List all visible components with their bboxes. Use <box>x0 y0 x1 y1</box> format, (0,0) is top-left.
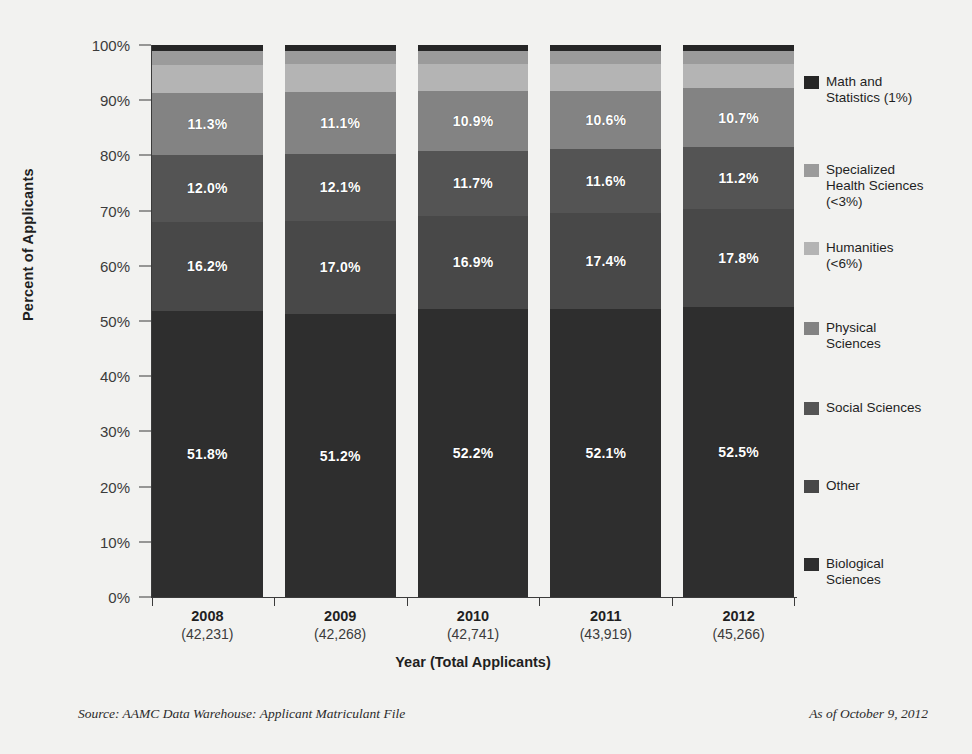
bar-segment[interactable] <box>152 51 263 66</box>
legend-swatch-icon <box>804 76 819 89</box>
legend-swatch-icon <box>804 558 819 571</box>
bar-segment-label: 17.4% <box>585 253 626 269</box>
bar-segment[interactable] <box>152 65 263 93</box>
chart-page: Percent of Applicants 100%90%80%70%60%50… <box>0 0 972 754</box>
bar-column[interactable]: 10.9%11.7%16.9%52.2% <box>418 45 529 597</box>
bar-segment[interactable]: 11.7% <box>418 151 529 216</box>
bar-segment[interactable] <box>683 51 794 64</box>
bar-segment-label: 12.1% <box>320 179 361 195</box>
bar-column[interactable]: 11.3%12.0%16.2%51.8% <box>152 45 263 597</box>
bar-segment[interactable] <box>418 51 529 64</box>
bar-segment[interactable]: 51.8% <box>152 311 263 597</box>
x-tick-total-applicants: (42,268) <box>285 626 396 642</box>
y-tick-mark <box>139 155 151 156</box>
bars-container: 11.3%12.0%16.2%51.8%11.1%12.1%17.0%51.2%… <box>152 45 794 597</box>
bar-segment[interactable]: 52.1% <box>550 309 661 597</box>
legend-item[interactable]: Social Sciences <box>804 400 954 416</box>
legend-label: Other <box>826 478 860 494</box>
bar-segment[interactable]: 12.1% <box>285 154 396 221</box>
x-tick-year: 2009 <box>285 608 396 624</box>
bar-segment[interactable]: 17.4% <box>550 213 661 309</box>
x-tick-year: 2008 <box>152 608 263 624</box>
bar-segment[interactable] <box>550 64 661 90</box>
legend-item[interactable]: Other <box>804 478 954 494</box>
x-tick-total-applicants: (42,741) <box>418 626 529 642</box>
legend-swatch-icon <box>804 242 819 255</box>
bar-segment[interactable]: 11.1% <box>285 92 396 153</box>
x-axis-label-group: 2012(45,266) <box>683 602 794 642</box>
bar-segment[interactable]: 11.2% <box>683 147 794 209</box>
y-tick-mark <box>139 486 151 487</box>
y-tick-label: 40% <box>100 368 130 385</box>
legend-label: Social Sciences <box>826 400 921 416</box>
y-tick-label: 70% <box>100 202 130 219</box>
legend-item[interactable]: Humanities (<6%) <box>804 240 954 272</box>
legend-label: Humanities (<6%) <box>826 240 894 272</box>
x-tick-year: 2012 <box>683 608 794 624</box>
bar-segment-label: 52.1% <box>585 445 626 461</box>
legend-swatch-icon <box>804 164 819 177</box>
bar-segment[interactable] <box>285 51 396 65</box>
bar-segment-label: 16.9% <box>453 254 494 270</box>
bar-segment-label: 11.7% <box>453 175 493 191</box>
bar-segment-label: 52.5% <box>718 444 759 460</box>
bar-segment-label: 11.1% <box>320 115 360 131</box>
bar-segment-label: 16.2% <box>187 258 228 274</box>
bar-segment[interactable]: 10.7% <box>683 88 794 147</box>
legend-item[interactable]: Math and Statistics (1%) <box>804 74 954 106</box>
legend-swatch-icon <box>804 402 819 415</box>
bar-column[interactable]: 10.7%11.2%17.8%52.5% <box>683 45 794 597</box>
x-axis-title: Year (Total Applicants) <box>152 654 794 670</box>
y-tick-mark <box>139 265 151 266</box>
bar-segment[interactable]: 10.9% <box>418 91 529 151</box>
y-tick-label: 90% <box>100 92 130 109</box>
x-axis-label-group: 2010(42,741) <box>418 602 529 642</box>
y-tick-label: 0% <box>108 589 130 606</box>
legend-label: Biological Sciences <box>826 556 884 588</box>
bar-segment[interactable]: 12.0% <box>152 155 263 221</box>
bar-segment[interactable] <box>550 51 661 65</box>
bar-gap <box>661 45 683 597</box>
bar-gap <box>528 45 550 597</box>
bar-segment[interactable]: 16.9% <box>418 216 529 309</box>
legend-item[interactable]: Biological Sciences <box>804 556 954 588</box>
bar-segment[interactable]: 17.0% <box>285 221 396 315</box>
x-axis-line <box>151 597 797 598</box>
bar-column[interactable]: 11.1%12.1%17.0%51.2% <box>285 45 396 597</box>
bar-segment[interactable]: 10.6% <box>550 91 661 150</box>
x-tick-total-applicants: (42,231) <box>152 626 263 642</box>
x-tick-total-applicants: (45,266) <box>683 626 794 642</box>
figure-canvas: Percent of Applicants 100%90%80%70%60%50… <box>26 10 946 736</box>
bar-segment[interactable]: 16.2% <box>152 222 263 311</box>
x-tick-year: 2011 <box>550 608 661 624</box>
bar-segment[interactable] <box>418 64 529 91</box>
y-tick-label: 20% <box>100 478 130 495</box>
bar-gap <box>263 45 285 597</box>
bar-segment[interactable]: 52.5% <box>683 307 794 597</box>
legend-label: Specialized Health Sciences (<3%) <box>826 162 924 210</box>
bar-segment-label: 17.8% <box>718 250 759 266</box>
bar-segment[interactable]: 52.2% <box>418 309 529 597</box>
legend-swatch-icon <box>804 480 819 493</box>
bar-column[interactable]: 10.6%11.6%17.4%52.1% <box>550 45 661 597</box>
bar-segment-label: 10.6% <box>585 112 626 128</box>
legend-item[interactable]: Physical Sciences <box>804 320 954 352</box>
x-axis-label-group: 2009(42,268) <box>285 602 396 642</box>
bar-segment-label: 11.6% <box>586 173 626 189</box>
legend-item[interactable]: Specialized Health Sciences (<3%) <box>804 162 954 210</box>
y-tick-mark <box>139 210 151 211</box>
bar-segment[interactable]: 17.8% <box>683 209 794 307</box>
source-note: Source: AAMC Data Warehouse: Applicant M… <box>78 706 405 722</box>
bar-segment-label: 11.2% <box>719 170 759 186</box>
bar-segment[interactable] <box>285 64 396 92</box>
bar-segment[interactable]: 51.2% <box>285 314 396 597</box>
x-tick-year: 2010 <box>418 608 529 624</box>
bar-segment[interactable]: 11.3% <box>152 93 263 155</box>
y-tick-mark <box>139 597 151 598</box>
bar-segment[interactable] <box>683 64 794 88</box>
y-tick-mark <box>139 376 151 377</box>
y-tick-label: 10% <box>100 533 130 550</box>
bar-segment[interactable]: 11.6% <box>550 149 661 213</box>
bar-segment-label: 51.2% <box>320 448 361 464</box>
y-tick-mark <box>139 100 151 101</box>
